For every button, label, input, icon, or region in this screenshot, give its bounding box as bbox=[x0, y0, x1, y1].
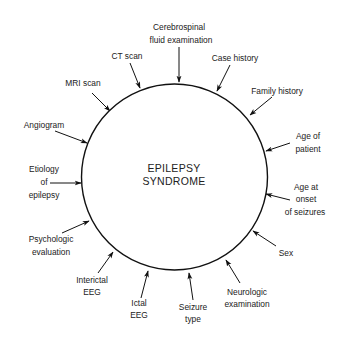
label-ct-scan: CT scan bbox=[111, 51, 142, 61]
arrow-neurologic-exam bbox=[226, 260, 240, 283]
arrow-ictal-eeg bbox=[141, 271, 148, 298]
svg-text:Age of: Age of bbox=[296, 131, 321, 141]
arrow-ct-scan bbox=[130, 63, 140, 88]
svg-text:EPILEPSY: EPILEPSY bbox=[147, 162, 200, 174]
arrow-angiogram bbox=[55, 131, 87, 143]
arrow-family-history bbox=[250, 97, 272, 115]
arrow-interictal-eeg bbox=[98, 252, 113, 273]
svg-text:patient: patient bbox=[295, 144, 321, 154]
svg-text:CT scan: CT scan bbox=[111, 51, 142, 61]
svg-text:MRI scan: MRI scan bbox=[65, 78, 101, 88]
svg-text:epilepsy: epilepsy bbox=[29, 190, 61, 200]
label-ictal-eeg: Ictal EEG bbox=[130, 298, 148, 320]
arrow-psychologic-evaluation bbox=[62, 221, 89, 233]
arrow-age-at-onset bbox=[266, 194, 290, 200]
svg-text:Neurologic: Neurologic bbox=[227, 287, 267, 297]
svg-text:of: of bbox=[41, 177, 49, 187]
svg-text:Angiogram: Angiogram bbox=[24, 120, 65, 130]
svg-text:evaluation: evaluation bbox=[32, 247, 71, 257]
svg-text:type: type bbox=[185, 314, 201, 324]
svg-text:Interictal: Interictal bbox=[76, 275, 108, 285]
svg-text:Cerebrospinal: Cerebrospinal bbox=[153, 22, 205, 32]
svg-text:Family history: Family history bbox=[251, 86, 303, 96]
label-sex: Sex bbox=[279, 248, 294, 258]
label-neurologic-exam: Neurologic examination bbox=[224, 287, 270, 309]
label-age-of-patient: Age of patient bbox=[295, 131, 321, 154]
label-age-at-onset: Age at onset of seizures bbox=[285, 182, 326, 217]
svg-text:fluid examination: fluid examination bbox=[150, 35, 213, 45]
svg-text:Case history: Case history bbox=[212, 53, 259, 63]
svg-text:Etiology: Etiology bbox=[29, 164, 60, 174]
label-csf: Cerebrospinal fluid examination bbox=[150, 22, 213, 45]
arrow-mri-scan bbox=[92, 93, 110, 111]
arrow-sex bbox=[253, 231, 276, 246]
label-etiology: Etiology of epilepsy bbox=[29, 164, 61, 200]
svg-text:examination: examination bbox=[224, 299, 270, 309]
label-mri-scan: MRI scan bbox=[65, 78, 101, 88]
svg-text:Age at: Age at bbox=[294, 182, 319, 192]
svg-text:Psychologic: Psychologic bbox=[29, 234, 74, 244]
label-case-history: Case history bbox=[212, 53, 259, 63]
arrow-age-of-patient bbox=[266, 143, 290, 151]
svg-text:EEG: EEG bbox=[130, 310, 148, 320]
center-label: EPILEPSY SYNDROME bbox=[142, 162, 205, 187]
arrow-seizure-type bbox=[189, 273, 193, 300]
svg-text:onset: onset bbox=[296, 194, 317, 204]
label-seizure-type: Seizure type bbox=[179, 302, 208, 324]
svg-text:EEG: EEG bbox=[83, 287, 101, 297]
label-interictal-eeg: Interictal EEG bbox=[76, 275, 108, 297]
label-psychologic-evaluation: Psychologic evaluation bbox=[29, 234, 74, 257]
svg-text:Ictal: Ictal bbox=[131, 298, 146, 308]
arrow-case-history bbox=[217, 65, 230, 91]
svg-text:of seizures: of seizures bbox=[285, 207, 326, 217]
epilepsy-syndrome-diagram: EPILEPSY SYNDROME Cerebrospinal fluid ex… bbox=[0, 0, 346, 339]
svg-text:SYNDROME: SYNDROME bbox=[142, 175, 205, 187]
svg-text:Seizure: Seizure bbox=[179, 302, 208, 312]
label-angiogram: Angiogram bbox=[24, 120, 65, 130]
svg-text:Sex: Sex bbox=[279, 248, 294, 258]
label-family-history: Family history bbox=[251, 86, 303, 96]
